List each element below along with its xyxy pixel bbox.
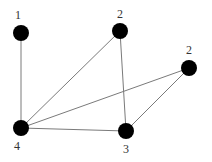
node-n2a (112, 23, 128, 39)
node-label-n2a: 2 (117, 7, 123, 21)
edge-n2b-n4 (21, 68, 189, 128)
edges-group (21, 31, 189, 131)
node-label-n4: 4 (14, 139, 20, 153)
edge-n2a-n4 (21, 31, 120, 128)
nodes-group (13, 23, 197, 139)
node-label-n1: 1 (15, 8, 21, 22)
node-label-n2b: 2 (186, 43, 192, 57)
node-n4 (13, 120, 29, 136)
node-n1 (13, 25, 29, 41)
edge-n4-n3 (21, 128, 126, 131)
edge-n2a-n3 (120, 31, 126, 131)
edge-n2b-n3 (126, 68, 189, 131)
node-n3 (118, 123, 134, 139)
labels-group: 12243 (14, 7, 192, 156)
node-label-n3: 3 (123, 142, 129, 156)
graph-diagram: 12243 (0, 0, 212, 162)
node-n2b (181, 60, 197, 76)
